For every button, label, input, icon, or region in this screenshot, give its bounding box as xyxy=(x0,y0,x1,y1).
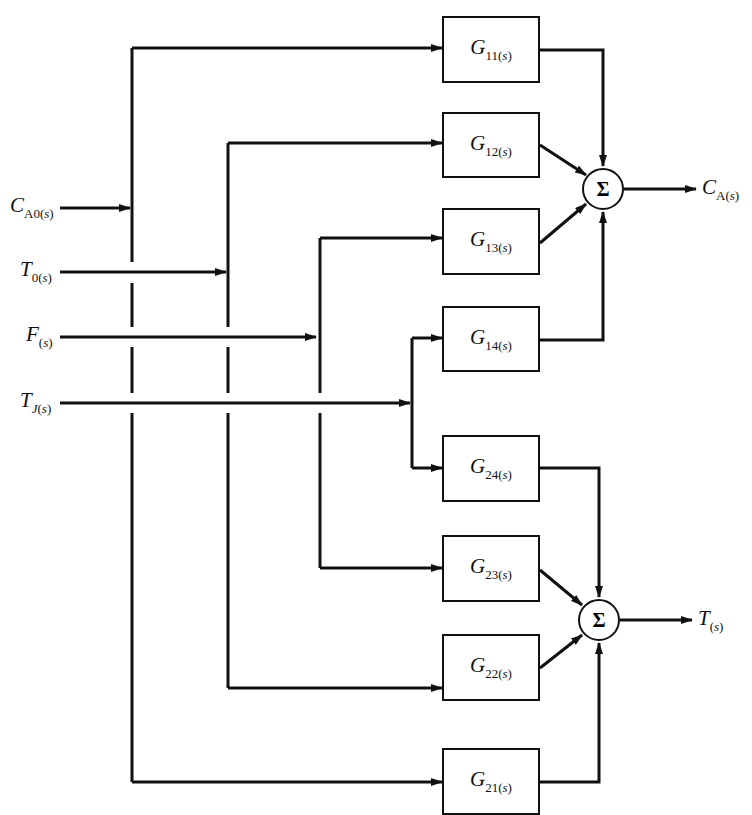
block-g23: G23(s) xyxy=(442,535,540,602)
block-g13: G13(s) xyxy=(442,208,540,275)
output-label-t: T(s) xyxy=(698,606,723,635)
input-label-f: F(s) xyxy=(26,322,53,351)
block-g14: G14(s) xyxy=(442,306,540,372)
summing-junction-top: Σ xyxy=(582,168,624,210)
input-label-tj: TJ(s) xyxy=(20,388,51,417)
summing-junction-bottom: Σ xyxy=(578,599,620,641)
block-g21: G21(s) xyxy=(442,748,540,815)
block-g11: G11(s) xyxy=(442,16,540,83)
block-g24: G24(s) xyxy=(442,435,540,502)
sigma-icon: Σ xyxy=(596,178,609,201)
input-label-ca0: CA0(s) xyxy=(10,193,54,222)
output-label-ca: CA(s) xyxy=(702,175,739,204)
block-g22: G22(s) xyxy=(442,634,540,701)
input-label-t0: T0(s) xyxy=(20,257,52,286)
block-g12: G12(s) xyxy=(442,112,540,178)
sigma-icon: Σ xyxy=(592,609,605,632)
